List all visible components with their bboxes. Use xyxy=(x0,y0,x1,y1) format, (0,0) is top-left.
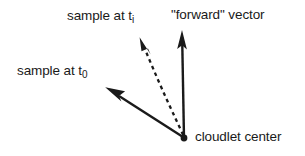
label-sample-at-t0-text: sample at t xyxy=(17,63,82,78)
label-forward-vector: "forward" vector xyxy=(171,8,265,22)
label-cloudlet-center: cloudlet center xyxy=(195,130,281,144)
label-sample-at-ti: sample at ti xyxy=(67,9,134,24)
sample-t0-shaft xyxy=(119,96,183,137)
cloudlet-center-dot xyxy=(181,135,188,142)
forward-vector-arrow xyxy=(177,30,187,138)
sample-ti-arrow xyxy=(140,37,184,135)
sample-t0-arrow xyxy=(105,87,183,137)
label-sample-at-t0: sample at t0 xyxy=(17,64,88,79)
label-sample-at-ti-subscript: i xyxy=(132,14,134,25)
sample-t0-arrowhead xyxy=(105,87,125,101)
sample-ti-arrowhead xyxy=(140,37,151,54)
cloudlet-vector-diagram: sample at ti "forward" vector sample at … xyxy=(0,0,305,156)
sample-ti-shaft xyxy=(146,51,184,136)
forward-vector-shaft xyxy=(182,45,184,138)
label-sample-at-t0-subscript: 0 xyxy=(82,69,88,80)
label-sample-at-ti-text: sample at t xyxy=(67,8,132,23)
